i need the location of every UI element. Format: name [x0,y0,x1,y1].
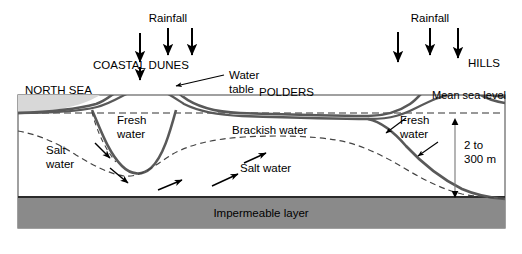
salt-water-left-label-line2: water [45,158,74,170]
mean-sea-level-label: Mean sea level [432,89,506,101]
depth-label-line1: 2 to [464,139,483,151]
fresh-water-left-label-line1: Fresh [117,114,146,126]
cross-section-diagram: Rainfall Rainfall COASTAL DUNES NORTH SE… [0,0,522,254]
rainfall-label-left: Rainfall [149,12,187,24]
salt-water-middle-label: Salt water [240,162,291,174]
hills-label: HILLS [468,57,500,69]
water-table-label-line2: table [229,83,254,95]
polders-label: POLDERS [259,86,314,98]
diagram-canvas: Rainfall Rainfall COASTAL DUNES NORTH SE… [0,0,522,254]
north-sea-label: NORTH SEA [25,84,92,96]
fresh-water-right-label-line2: water [399,128,428,140]
depth-label-line2: 300 m [464,153,496,165]
water-table-label-line1: Water [229,69,259,81]
fresh-water-left-label-line2: water [116,128,145,140]
coastal-dunes-label: COASTAL DUNES [93,59,189,71]
fresh-water-right-label-line1: Fresh [400,114,429,126]
salt-water-left-label-line1: Salt [46,144,67,156]
brackish-water-label: Brackish water [232,124,308,136]
impermeable-layer-label: Impermeable layer [213,207,308,219]
rainfall-label-right: Rainfall [411,12,449,24]
